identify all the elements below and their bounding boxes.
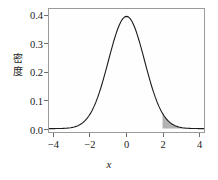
x-tick-mark [199,133,200,137]
x-tick-label: 0 [112,139,142,150]
x-tick-label: 2 [148,139,178,150]
y-tick-mark [44,43,48,44]
y-tick-mark [44,100,48,101]
y-tick-mark [44,72,48,73]
x-tick-mark [53,133,54,137]
density-chart-figure: 密 度 0.00.10.20.30.4 −4−2024 x [0,0,218,180]
x-tick-label: −4 [38,139,68,150]
x-axis-title: x [0,158,218,170]
x-axis-tick-labels: −4−2024 [0,0,218,180]
x-tick-label: 4 [185,139,215,150]
y-tick-mark [44,15,48,16]
x-tick-mark [126,133,127,137]
x-tick-mark [163,133,164,137]
x-tick-label: −2 [75,139,105,150]
x-tick-mark [89,133,90,137]
y-tick-mark [44,129,48,130]
